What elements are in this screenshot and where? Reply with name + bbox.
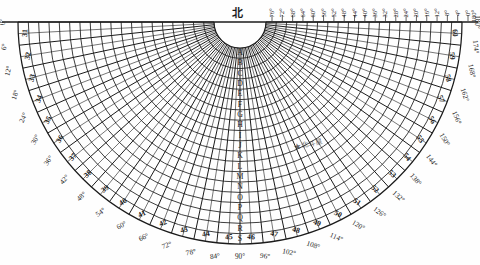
- ring-letter-label: H: [237, 121, 243, 129]
- sector-number-label: 45: [225, 233, 233, 241]
- sector-number-label: 60: [451, 29, 459, 37]
- ring-letter-label: M: [237, 173, 244, 181]
- ring-letter-label: L: [238, 163, 243, 171]
- top-degree-label: 76°: [269, 8, 276, 17]
- sector-number-label: 58: [443, 73, 452, 82]
- sector-number-label: 46: [247, 233, 255, 241]
- top-degree-label: 16°: [423, 8, 430, 17]
- ring-letter-label: I: [239, 132, 242, 140]
- sector-number-label: 42: [158, 218, 168, 228]
- top-degree-label: 64°: [300, 8, 307, 17]
- top-degree-label: 72°: [279, 8, 286, 17]
- top-degree-label: 24°: [403, 8, 410, 17]
- top-degree-label: 68°: [289, 8, 296, 17]
- top-degree-label: 12°: [434, 8, 441, 17]
- sector-number-label: 48: [291, 225, 300, 234]
- ring-letter-label: O: [237, 194, 243, 202]
- top-degree-label: 36°: [372, 8, 379, 17]
- top-degree-label: 20°: [413, 8, 420, 17]
- top-degree-label: 48°: [341, 8, 348, 17]
- ring-letter-label: N: [237, 183, 243, 191]
- chart-canvas: 北 ★北斗星 0°6°12°18°24°30°36°42°48°54°60°66…: [0, 0, 480, 265]
- ring-letter-label: S: [238, 235, 242, 243]
- perimeter-degree-label: 6°: [1, 43, 9, 50]
- ring-letter-label: F: [238, 101, 242, 109]
- top-degree-label: 8°: [444, 10, 451, 16]
- sector-number-label: 31: [21, 29, 29, 37]
- ring-letter-label: E: [238, 91, 243, 99]
- top-degree-label: 4°: [454, 10, 461, 16]
- top-degree-label: 52°: [331, 8, 338, 17]
- ring-letter-label: G: [237, 111, 243, 119]
- sector-number-label: 44: [202, 230, 211, 239]
- top-degree-label: 180°: [471, 10, 478, 23]
- sector-number-label: 47: [269, 230, 278, 239]
- perimeter-degree-label: 174°: [470, 39, 479, 53]
- ring-letter-label: P: [238, 204, 242, 212]
- ring-letter-label: K: [237, 152, 243, 160]
- top-degree-label: 32°: [382, 8, 389, 17]
- sector-number-label: 33: [28, 73, 37, 82]
- perimeter-degree-label: 90°: [235, 254, 245, 261]
- ring-letter-label: C: [237, 70, 242, 78]
- ring-letter-label: Q: [237, 214, 243, 222]
- sector-number-label: 32: [23, 51, 32, 60]
- top-degree-label: 60°: [310, 8, 317, 17]
- ring-letter-label: D: [237, 80, 243, 88]
- top-degree-label: 28°: [392, 8, 399, 17]
- top-degree-label: 44°: [351, 8, 358, 17]
- top-degree-label: 56°: [320, 8, 327, 17]
- ring-letter-label: B: [237, 60, 242, 68]
- perimeter-degree-label: 84°: [210, 253, 221, 261]
- sector-number-label: 59: [448, 51, 457, 60]
- ring-letter-label: A: [237, 49, 243, 57]
- ring-letter-label: J: [238, 142, 241, 150]
- top-degree-label: 40°: [362, 8, 369, 17]
- ring-letter-label: R: [237, 225, 242, 233]
- north-label: 北: [232, 8, 243, 19]
- perimeter-degree-label: 96°: [259, 253, 270, 261]
- sector-number-label: 43: [180, 225, 189, 234]
- perimeter-degree-label: 0°: [0, 19, 7, 25]
